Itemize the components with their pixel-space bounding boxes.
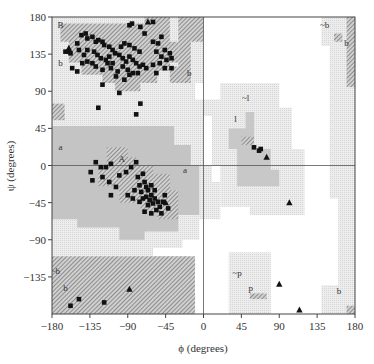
data-point-square (114, 74, 119, 79)
data-point-square (156, 41, 161, 46)
data-point-square (151, 63, 156, 68)
data-point-square (146, 188, 151, 193)
region-label: ~l (242, 93, 250, 103)
y-tick-label: −135 (23, 271, 46, 283)
y-axis-title: ψ (degrees) (4, 140, 17, 191)
data-point-square (114, 185, 119, 190)
data-point-square (127, 72, 132, 77)
region-label: b (344, 38, 349, 48)
region-label: b (63, 283, 68, 293)
data-point-square (70, 66, 75, 71)
data-point-square (129, 165, 134, 170)
data-point-square (157, 61, 162, 66)
data-point-square (117, 91, 122, 96)
data-point-square (127, 23, 132, 28)
data-point-square (142, 209, 147, 214)
hatch-region-b-right (334, 34, 342, 42)
y-tick-label: 0 (41, 160, 47, 172)
data-point-square (137, 200, 142, 205)
data-point-square (139, 190, 144, 195)
data-point-square (131, 196, 136, 201)
data-point-square (77, 48, 82, 53)
hatch-region-corner (347, 306, 355, 314)
data-point-square (146, 203, 151, 208)
hatch-region-l (241, 137, 254, 145)
data-point-square (137, 49, 142, 54)
data-point-square (88, 170, 93, 175)
region-label: B (57, 20, 63, 30)
data-point-square (137, 183, 142, 188)
data-point-square (154, 208, 159, 213)
data-point-square (107, 54, 112, 59)
x-tick-label: −90 (119, 320, 137, 332)
data-point-square (136, 71, 141, 76)
data-point-square (258, 147, 263, 152)
region-label: a (58, 142, 62, 152)
hatch-region-right-edge (347, 17, 355, 87)
data-point-square (105, 61, 110, 66)
x-tick-label: −135 (79, 320, 102, 332)
x-tick-label: 180 (347, 320, 364, 332)
data-point-square (109, 66, 114, 71)
data-point-square (96, 38, 101, 43)
data-point-square (85, 36, 90, 41)
data-point-square (110, 61, 115, 66)
data-point-square (93, 64, 98, 69)
data-point-square (162, 66, 167, 71)
y-tick-label: 45 (35, 122, 47, 134)
data-point-square (164, 58, 169, 63)
data-point-square (68, 303, 73, 308)
data-point-square (68, 51, 73, 56)
gap-region (195, 271, 203, 293)
region-label: p (248, 283, 253, 293)
x-axis: −180−135−90−4504590135180 (41, 314, 364, 332)
data-point-square (149, 183, 154, 188)
data-point-square (93, 160, 98, 165)
region-label: ~b (320, 20, 330, 30)
data-point-square (117, 173, 122, 178)
region-label: b (337, 286, 342, 296)
core-region-bottom (52, 256, 195, 314)
ramachandran-plot: BbaAab~ll~bb~bb~ppb −180−135−90−45045901… (0, 0, 374, 364)
data-point-square (162, 193, 167, 198)
region-label: b (58, 58, 63, 68)
x-axis-title: ϕ (degrees) (178, 342, 228, 355)
region-label: b (187, 68, 192, 78)
data-point-square (104, 165, 109, 170)
data-point-square (151, 201, 156, 206)
data-point-square (80, 61, 85, 66)
data-point-square (136, 175, 141, 180)
data-point-square (159, 35, 164, 40)
hatch-region-p (250, 293, 267, 299)
data-point-square (138, 25, 143, 30)
y-tick-label: 90 (35, 85, 47, 97)
data-point-square (90, 35, 95, 40)
data-point-square (144, 66, 149, 71)
data-point-square (100, 68, 105, 73)
data-point-square (252, 145, 257, 150)
data-point-square (96, 105, 101, 110)
data-point-square (102, 43, 107, 48)
data-point-square (154, 49, 159, 54)
data-point-square (122, 41, 127, 46)
x-tick-label: −180 (41, 320, 64, 332)
data-point-square (90, 178, 95, 183)
region-label: ~p (232, 268, 242, 278)
y-tick-label: −45 (29, 197, 47, 209)
data-point-square (79, 33, 84, 38)
data-point-square (122, 77, 127, 82)
plot-area: BbaAab~ll~bb~bb~ppb (51, 17, 355, 314)
y-tick-label: 135 (30, 48, 47, 60)
data-point-square (142, 180, 147, 185)
data-point-square (124, 170, 129, 175)
data-point-square (134, 160, 139, 165)
data-point-square (124, 59, 129, 64)
data-point-square (125, 68, 130, 73)
data-point-square (138, 101, 143, 106)
x-tick-label: 135 (309, 320, 326, 332)
data-point-square (99, 165, 104, 170)
data-point-square (75, 69, 80, 74)
data-point-square (134, 112, 139, 117)
data-point-square (154, 71, 159, 76)
data-point-square (166, 206, 171, 211)
